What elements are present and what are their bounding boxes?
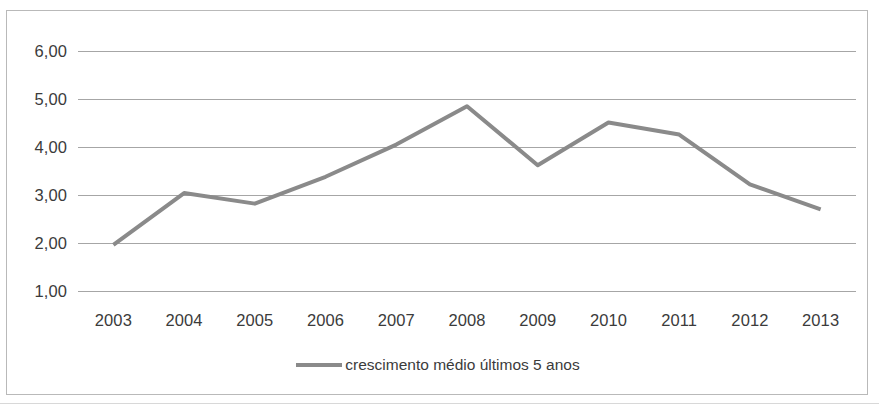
line-swatch-icon	[296, 363, 342, 367]
x-axis-tick-label: 2012	[731, 311, 768, 330]
y-axis-tick-label: 2,00	[34, 234, 67, 253]
x-axis-tick-label: 2008	[448, 311, 485, 330]
line-series-crescimento-medio	[78, 51, 856, 291]
chart-legend: crescimento médio últimos 5 anos	[7, 356, 869, 374]
x-axis-tick-label: 2009	[519, 311, 556, 330]
x-axis-tick-label: 2003	[95, 311, 132, 330]
y-axis-tick-label: 3,00	[34, 186, 67, 205]
y-axis-tick-label: 5,00	[34, 90, 67, 109]
chart-figure: 6,005,004,003,002,001,00 200320042005200…	[6, 10, 868, 395]
legend-item-label: crescimento médio últimos 5 anos	[345, 356, 579, 374]
x-axis-tick-label: 2004	[166, 311, 203, 330]
y-axis-tick-label: 4,00	[34, 138, 67, 157]
gridline	[78, 291, 856, 292]
x-axis-tick-label: 2005	[236, 311, 273, 330]
page-scan-line	[0, 403, 879, 404]
x-axis-tick-label: 2010	[590, 311, 627, 330]
y-axis-tick-label: 6,00	[34, 42, 67, 61]
x-axis-tick-label: 2007	[378, 311, 415, 330]
x-axis-tick-label: 2011	[661, 311, 697, 330]
y-axis-tick-label: 1,00	[34, 282, 67, 301]
x-axis-tick-label: 2013	[802, 311, 839, 330]
x-axis-tick-label: 2006	[307, 311, 344, 330]
series-line	[113, 106, 820, 245]
plot-area: 6,005,004,003,002,001,00 200320042005200…	[78, 51, 856, 291]
